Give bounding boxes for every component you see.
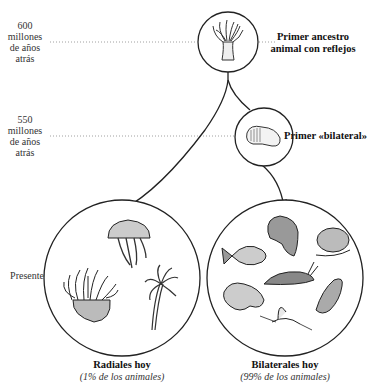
time-550-unit: millones: [0, 125, 50, 136]
ancestor-label-line2: animal con reflejos: [258, 43, 368, 55]
time-label-present: Presente: [0, 270, 44, 281]
bilateral-caption-title: Bilaterales hoy: [225, 359, 345, 371]
time-600-unit3: atrás: [0, 53, 50, 64]
time-550-unit2: de años: [0, 136, 50, 147]
time-550-unit3: atrás: [0, 147, 50, 158]
time-600-unit: millones: [0, 31, 50, 42]
bilateral-caption-subtitle: (99% de los animales): [225, 371, 345, 382]
radial-caption-title: Radiales hoy: [62, 359, 182, 371]
time-600-unit2: de años: [0, 42, 50, 53]
evolution-diagram: [0, 0, 374, 391]
ancestor-label: Primer ancestro animal con reflejos: [258, 31, 368, 55]
time-label-600: 600 millones de años atrás: [0, 20, 50, 64]
ancestor-label-line1: Primer ancestro: [258, 31, 368, 43]
time-600-value: 600: [0, 20, 50, 31]
radial-group-circle: [44, 200, 200, 356]
ancestor-node: [198, 12, 258, 72]
bilateral-group-circle: [207, 200, 363, 356]
radial-caption: Radiales hoy (1% de los animales): [62, 359, 182, 382]
time-label-550: 550 millones de años atrás: [0, 114, 50, 158]
bilateral-label: Primer «bilateral»: [284, 130, 374, 142]
radial-caption-subtitle: (1% de los animales): [62, 371, 182, 382]
bilateral-caption: Bilaterales hoy (99% de los animales): [225, 359, 345, 382]
time-550-value: 550: [0, 114, 50, 125]
branch-to-bilateral: [228, 80, 250, 110]
branch-to-radial: [122, 72, 228, 210]
